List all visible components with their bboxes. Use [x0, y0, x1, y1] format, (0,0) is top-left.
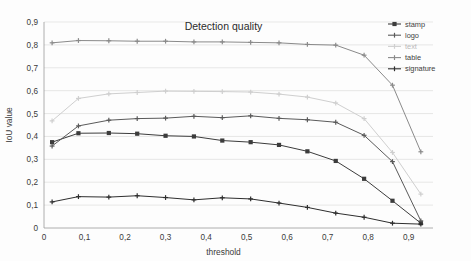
data-point-stamp: [76, 131, 80, 135]
legend-label-text: text: [405, 42, 417, 51]
x-tick-label: 0,7: [322, 233, 334, 242]
data-point-stamp: [163, 134, 167, 138]
y-axis-title: IoU value: [4, 107, 14, 143]
x-tick-label: 0,8: [362, 233, 374, 242]
y-tick-label: 0,7: [27, 64, 39, 73]
y-tick-label: 0,5: [27, 110, 39, 119]
gridlines: [44, 22, 433, 205]
legend: stamplogotexttablesignature: [388, 20, 435, 74]
data-point-stamp: [305, 149, 309, 153]
y-tick-label: 0,1: [27, 201, 39, 210]
legend-item-text[interactable]: text: [388, 42, 417, 51]
y-tick-label: 0: [33, 224, 38, 233]
data-point-stamp: [192, 134, 196, 138]
data-point-stamp: [362, 177, 366, 181]
y-tick-label: 0,4: [27, 132, 39, 141]
series-line-signature: [52, 196, 421, 224]
y-tick-labels: 00,10,20,30,40,50,60,70,80,9: [27, 18, 39, 233]
x-axis-title: threshold: [206, 247, 241, 257]
x-tick-label: 0,2: [119, 233, 131, 242]
x-tick-label: 0,3: [160, 233, 172, 242]
y-tick-label: 0,9: [27, 18, 39, 27]
data-point-stamp: [50, 140, 54, 144]
legend-item-signature[interactable]: signature: [388, 64, 435, 73]
legend-item-logo[interactable]: logo: [388, 31, 419, 40]
data-point-stamp: [135, 132, 139, 136]
y-tick-label: 0,2: [27, 178, 39, 187]
detection-quality-chart: 00,10,20,30,40,50,60,70,80,9 00,10,20,30…: [0, 0, 471, 261]
series-logo: [50, 113, 424, 223]
series-layer: [50, 38, 424, 226]
x-tick-label: 0,5: [241, 233, 253, 242]
legend-label-signature: signature: [405, 64, 435, 73]
data-point-stamp: [220, 138, 224, 142]
chart-title: Detection quality: [185, 20, 263, 32]
x-tick-label: 0: [42, 233, 47, 242]
x-tick-label: 0,1: [79, 233, 91, 242]
legend-item-table[interactable]: table: [388, 53, 421, 62]
x-tick-labels: 00,10,20,30,40,50,60,70,80,9: [42, 233, 415, 242]
legend-label-table: table: [405, 53, 421, 62]
legend-marker-stamp: [392, 22, 396, 26]
series-signature: [50, 193, 424, 226]
x-tick-label: 0,9: [403, 233, 415, 242]
legend-label-stamp: stamp: [405, 20, 425, 29]
chart-canvas: 00,10,20,30,40,50,60,70,80,9 00,10,20,30…: [0, 0, 471, 261]
y-tick-label: 0,8: [27, 41, 39, 50]
data-point-stamp: [390, 199, 394, 203]
series-stamp: [50, 131, 423, 225]
data-point-stamp: [107, 131, 111, 135]
legend-item-stamp[interactable]: stamp: [388, 20, 425, 29]
series-text: [50, 89, 424, 197]
x-tick-label: 0,6: [281, 233, 293, 242]
x-tick-label: 0,4: [200, 233, 212, 242]
data-point-stamp: [249, 140, 253, 144]
data-point-stamp: [334, 159, 338, 163]
y-tick-label: 0,3: [27, 155, 39, 164]
data-point-stamp: [277, 143, 281, 147]
legend-label-logo: logo: [405, 31, 419, 40]
y-tick-label: 0,6: [27, 87, 39, 96]
